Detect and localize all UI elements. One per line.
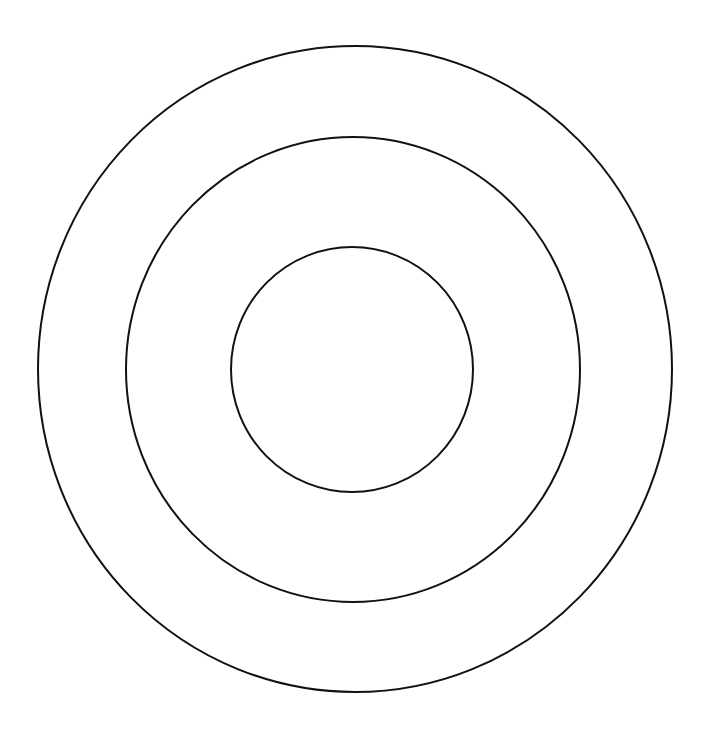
concentric-circles-diagram: [0, 0, 704, 745]
background: [0, 0, 704, 745]
